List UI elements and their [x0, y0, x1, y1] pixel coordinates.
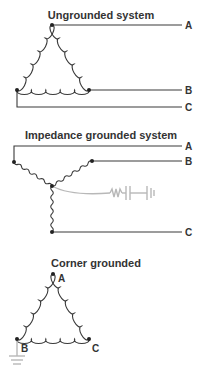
label-a: A [185, 141, 192, 152]
ground-icon [9, 356, 25, 364]
label-a: A [185, 20, 192, 31]
impedance-grounded-system: Impedance grounded system A B C [12, 129, 192, 238]
node-c [87, 337, 91, 341]
line-c [17, 90, 182, 107]
label-c: C [185, 227, 192, 238]
node-neutral [50, 184, 54, 188]
node-a [12, 160, 16, 164]
winding-a [14, 162, 52, 186]
winding-bottom [17, 90, 89, 95]
node-apex [50, 23, 54, 27]
node-b [15, 337, 19, 341]
winding-right [51, 274, 89, 340]
node-b [90, 159, 94, 163]
label-b: B [21, 343, 28, 354]
label-b: B [185, 85, 192, 96]
label-a: A [58, 273, 65, 284]
line-a [14, 146, 182, 162]
winding-left [17, 274, 55, 340]
winding-left [17, 25, 54, 91]
winding-c [51, 186, 54, 232]
winding-right [50, 25, 89, 91]
neutral-lead [52, 186, 110, 194]
node-c [50, 230, 54, 234]
node-bottom-left [15, 88, 19, 92]
corner-title: Corner grounded [51, 257, 141, 269]
winding-b [52, 161, 92, 186]
label-b: B [185, 156, 192, 167]
corner-grounded-system: Corner grounded A B C [9, 257, 141, 364]
resistor-icon [110, 189, 122, 197]
label-c: C [92, 343, 99, 354]
ungrounded-title: Ungrounded system [48, 9, 155, 21]
node-a [51, 272, 55, 276]
label-c: C [185, 102, 192, 113]
impedance-title: Impedance grounded system [25, 129, 177, 141]
node-bottom-right [87, 88, 91, 92]
ungrounded-system: Ungrounded system A B C [15, 9, 192, 113]
grounding-systems-diagram: Ungrounded system A B C Impedance ground… [0, 0, 203, 371]
delta-windings [17, 25, 89, 95]
impedance-ground-path [52, 186, 154, 200]
